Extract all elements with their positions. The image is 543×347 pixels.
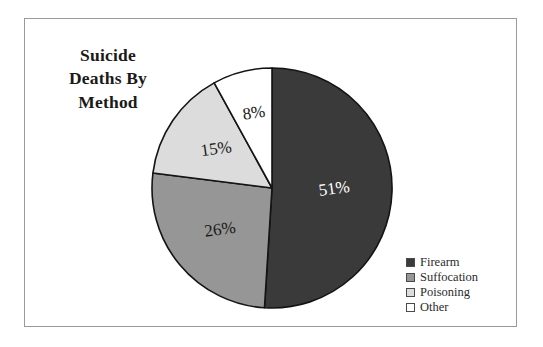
legend-label-poisoning: Poisoning (420, 286, 470, 299)
legend-swatch-firearm (406, 258, 415, 267)
pie-slices (152, 68, 392, 308)
legend-swatch-poisoning (406, 288, 415, 297)
legend-item-poisoning[interactable]: Poisoning (406, 285, 506, 300)
legend-label-firearm: Firearm (420, 256, 460, 269)
legend-item-other[interactable]: Other (406, 300, 506, 315)
legend-swatch-other (406, 303, 415, 312)
legend-swatch-suffocation (406, 273, 415, 282)
pie-slice-suffocation[interactable] (152, 173, 272, 308)
legend-label-other: Other (420, 301, 448, 314)
legend-item-firearm[interactable]: Firearm (406, 255, 506, 270)
legend-label-suffocation: Suffocation (420, 271, 478, 284)
pie-label-other: 8% (241, 102, 266, 124)
legend-item-suffocation[interactable]: Suffocation (406, 270, 506, 285)
legend: Firearm Suffocation Poisoning Other (406, 255, 506, 315)
